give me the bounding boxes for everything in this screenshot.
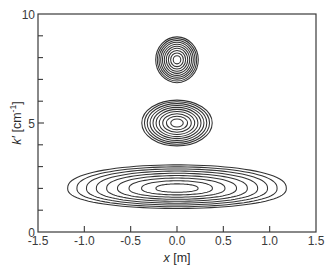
x-tick-label: 1.5: [308, 234, 325, 248]
contour-line: [157, 39, 196, 81]
contour-line: [150, 105, 204, 140]
y-tick-label: 5: [28, 117, 35, 131]
contour-cluster-lower: [68, 165, 287, 209]
contour-line: [173, 56, 181, 64]
contour-chart: -1.5-1.0-0.50.00.51.01.50510 x [m] k′ [c…: [0, 0, 336, 273]
y-tick-label: 0: [28, 226, 35, 240]
x-tick-label: 1.0: [261, 234, 278, 248]
contour-line: [153, 107, 201, 138]
contour-line: [161, 42, 194, 77]
contour-line: [171, 119, 184, 127]
x-axis-label: x [m]: [162, 251, 190, 265]
contour-cluster-upper: [156, 37, 199, 83]
y-tick-label: 10: [22, 8, 36, 22]
contour-line: [144, 102, 209, 144]
contour-line: [166, 48, 187, 71]
x-tick-label: -0.5: [120, 234, 141, 248]
x-tick-label: 0.5: [215, 234, 232, 248]
contour-line: [166, 116, 187, 130]
x-tick-label: -1.0: [74, 234, 95, 248]
contour-line: [162, 44, 191, 75]
contour-cluster-middle: [142, 100, 212, 146]
y-axis-unit: [cm: [10, 112, 24, 136]
contour-line: [117, 176, 236, 200]
contour-line: [171, 53, 184, 67]
tick-labels: -1.5-1.0-0.50.00.51.01.50510: [22, 8, 325, 249]
contour-layer: [68, 37, 287, 209]
x-axis-unit: [m]: [170, 251, 191, 265]
y-axis-label: k′ [cm-1]: [8, 101, 24, 144]
contour-line: [159, 111, 194, 134]
x-tick-label: 0.0: [169, 234, 186, 248]
contour-line: [156, 184, 198, 192]
y-axis-unit-close: ]: [10, 101, 24, 104]
